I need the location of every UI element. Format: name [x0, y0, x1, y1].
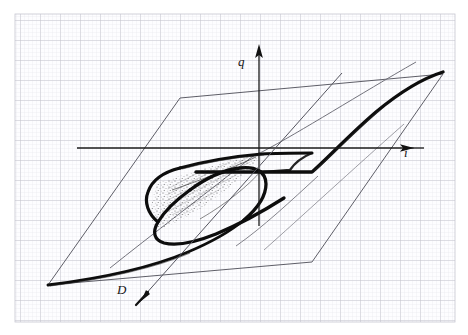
axis-label-i: i: [404, 146, 408, 159]
figure-canvas: q i D: [0, 0, 468, 335]
catastrophe-surface-diagram: [0, 0, 468, 335]
axis-label-q: q: [238, 55, 245, 68]
axis-label-D: D: [117, 283, 126, 296]
